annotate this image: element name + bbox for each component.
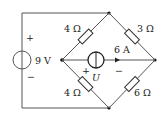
voltage-source-label: 9 V	[35, 55, 51, 66]
circuit-diagram: + − 9 V 4 Ω 3 Ω 4 Ω 6 Ω 6 A + − U	[0, 0, 168, 118]
resistor-top-right-label: 3 Ω	[137, 23, 154, 34]
current-source-plus: +	[82, 65, 90, 76]
voltage-source-plus: +	[26, 32, 34, 43]
resistor-top-left-label: 4 Ω	[64, 23, 81, 34]
voltage-source-minus: −	[27, 71, 35, 82]
current-source-voltage-label: U	[92, 72, 101, 83]
voltage-source	[13, 51, 31, 69]
current-source	[88, 52, 104, 68]
current-arrow-icon	[115, 58, 120, 63]
resistor-bottom-left-label: 4 Ω	[64, 87, 81, 98]
current-source-label: 6 A	[114, 44, 130, 55]
current-source-minus: −	[115, 65, 123, 76]
resistor-bottom-right-label: 6 Ω	[134, 87, 151, 98]
